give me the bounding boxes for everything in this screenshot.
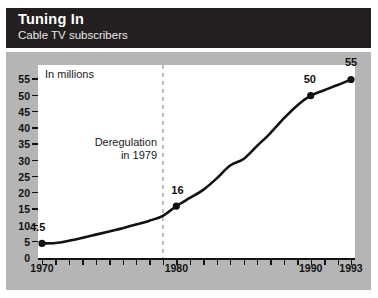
x-axis-tick-mark-1985 — [244, 260, 245, 265]
y-axis-tick-mark-55 — [32, 78, 38, 79]
x-axis-tick-mark-1973 — [82, 260, 83, 265]
x-axis-tick-mark-1984 — [230, 260, 231, 265]
y-axis-tick-label-45: 45 — [8, 107, 30, 117]
x-axis-tick-mark-1983 — [217, 260, 218, 265]
y-axis-tick-mark-35 — [32, 143, 38, 144]
x-axis-tick-mark-1976 — [123, 260, 124, 265]
y-axis-tick-mark-15 — [32, 208, 38, 209]
x-axis-tick-mark-1972 — [69, 260, 70, 265]
x-axis-tick-mark-1982 — [203, 260, 204, 265]
chart-header-banner: Tuning In Cable TV subscribers — [6, 8, 371, 48]
x-axis-tick-label-1990: 1990 — [291, 262, 331, 274]
y-axis-tick-mark-20 — [32, 192, 38, 193]
y-axis-tick-mark-50 — [32, 95, 38, 96]
y-axis-tick-label-15: 15 — [8, 204, 30, 214]
data-point-label-50: 50 — [304, 73, 316, 85]
y-axis-tick-mark-5 — [32, 241, 38, 242]
x-axis-tick-mark-1977 — [136, 260, 137, 265]
x-axis-tick-label-1970: 1970 — [22, 262, 62, 274]
y-axis-tick-label-35: 35 — [8, 139, 30, 149]
y-axis-tick-mark-25 — [32, 176, 38, 177]
x-axis-line — [38, 258, 355, 260]
x-axis-tick-label-1993: 1993 — [331, 262, 371, 274]
y-axis-tick-label-55: 55 — [8, 74, 30, 84]
y-axis-tick-label-20: 20 — [8, 188, 30, 198]
x-axis-tick-label-1980: 1980 — [156, 262, 196, 274]
data-point-label-16: 16 — [171, 184, 183, 196]
deregulation-annotation-line1: Deregulation — [60, 136, 157, 149]
x-axis-tick-mark-1974 — [96, 260, 97, 265]
y-axis-tick-mark-45 — [32, 111, 38, 112]
chart-subtitle: Cable TV subscribers — [18, 28, 128, 43]
y-axis-tick-label-50: 50 — [8, 91, 30, 101]
y-axis-tick-label-5: 5 — [8, 237, 30, 247]
data-point-label-55: 55 — [345, 56, 357, 68]
units-label: In millions — [45, 68, 94, 80]
deregulation-annotation-line2: in 1979 — [60, 149, 157, 162]
plot-area — [38, 65, 355, 259]
y-axis-tick-mark-30 — [32, 160, 38, 161]
x-axis-tick-mark-1975 — [109, 260, 110, 265]
deregulation-annotation: Deregulation in 1979 — [60, 136, 157, 162]
y-axis-tick-label-40: 40 — [8, 123, 30, 133]
line-chart-svg — [38, 65, 355, 259]
x-axis-tick-mark-1987 — [270, 260, 271, 265]
y-axis-tick-label-25: 25 — [8, 172, 30, 182]
y-axis-tick-label-10: 10 — [8, 221, 30, 231]
chart-figure: Tuning In Cable TV subscribers In millio… — [0, 0, 378, 298]
data-point-label-4-5: 4.5 — [30, 221, 45, 233]
chart-title: Tuning In — [18, 11, 84, 28]
y-axis-tick-mark-40 — [32, 127, 38, 128]
x-axis-tick-mark-1988 — [284, 260, 285, 265]
y-axis-tick-label-30: 30 — [8, 156, 30, 166]
x-axis-tick-mark-1978 — [149, 260, 150, 265]
x-axis-tick-mark-1986 — [257, 260, 258, 265]
